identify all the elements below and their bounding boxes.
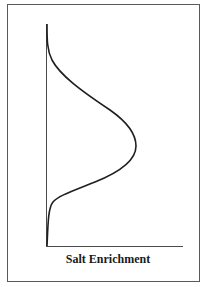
x-axis-label: Salt Enrichment xyxy=(40,252,176,267)
salt-enrichment-plot xyxy=(0,0,205,287)
enrichment-curve xyxy=(47,24,136,246)
